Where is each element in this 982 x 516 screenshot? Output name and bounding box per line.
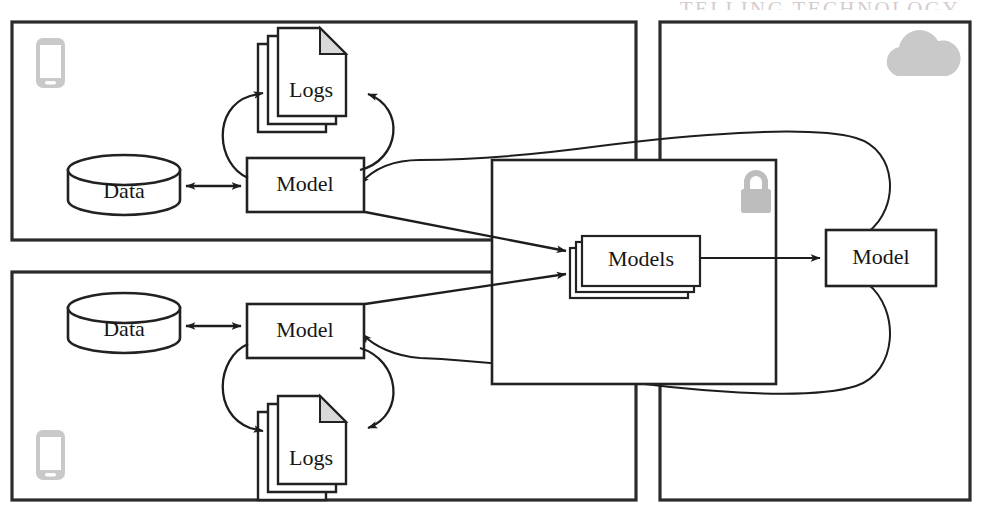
data-label-bottom: Data xyxy=(103,316,145,341)
data-cylinder-top: Data xyxy=(68,155,180,215)
model-label-top: Model xyxy=(276,171,333,196)
models-label: Models xyxy=(608,246,674,271)
model-label-cloud: Model xyxy=(852,244,909,269)
logs-label-bottom: Logs xyxy=(289,445,333,470)
smartphone-icon xyxy=(36,430,65,480)
model-box-cloud: Model xyxy=(826,230,936,286)
logs-label-top: Logs xyxy=(289,77,333,102)
data-label-top: Data xyxy=(103,178,145,203)
diagram-canvas: TELLING TECHNOLOGY xyxy=(0,0,982,516)
model-label-bottom: Model xyxy=(276,317,333,342)
logs-document-stack-top: Logs xyxy=(258,28,346,132)
secure-aggregation-box: Models xyxy=(492,160,776,384)
models-stack: Models xyxy=(570,236,700,298)
model-box-top: Model xyxy=(247,158,364,212)
logs-document-stack-bottom: Logs xyxy=(258,396,346,500)
smartphone-icon xyxy=(36,38,65,88)
data-cylinder-bottom: Data xyxy=(68,293,180,353)
model-box-bottom: Model xyxy=(247,304,364,358)
